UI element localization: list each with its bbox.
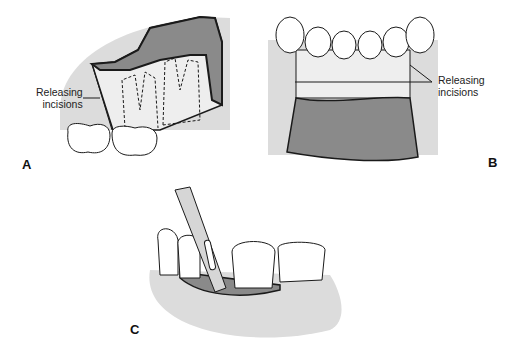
panel-c-illustration [149, 187, 341, 338]
panel-b-label-line1: Releasing [438, 74, 485, 86]
panel-b-label-line2: incisions [438, 86, 485, 98]
diagram-canvas [0, 0, 522, 356]
panel-b-label: Releasing incisions [438, 74, 485, 98]
panel-b-illustration [268, 17, 438, 161]
panel-letter-c: C [130, 322, 139, 337]
panel-a-label-line2: incisions [36, 98, 83, 110]
panel-a-label-line1: Releasing [36, 86, 83, 98]
panel-a-label: Releasing incisions [36, 86, 83, 110]
panel-a-illustration [60, 17, 230, 155]
panel-letter-a: A [22, 157, 31, 172]
panel-letter-b: B [488, 155, 497, 170]
